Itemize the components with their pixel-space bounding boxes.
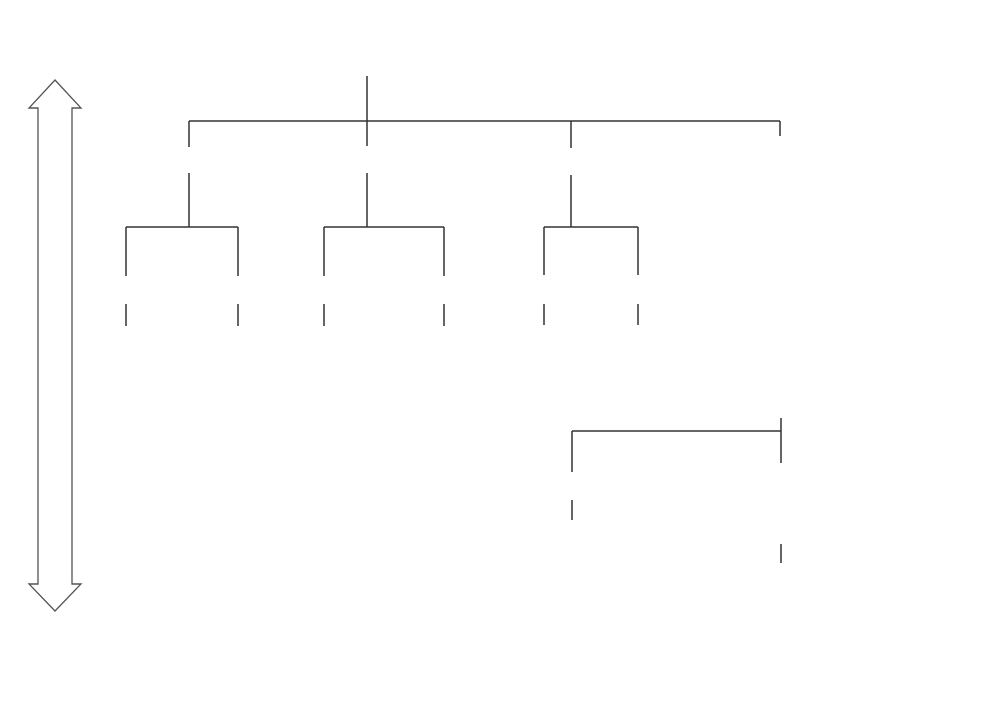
dynamic-arrow [97,0,626,626]
decision-making-arrow [29,80,81,611]
connector-lines [0,0,984,701]
